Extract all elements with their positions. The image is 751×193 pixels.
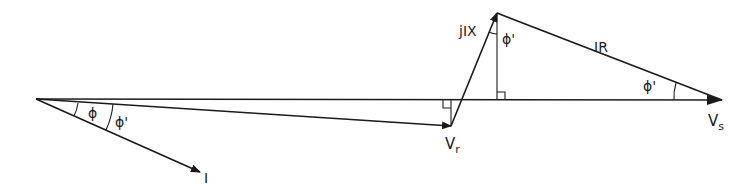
ir-label: IR	[594, 39, 608, 55]
phi-arc	[74, 103, 78, 116]
phi-prime-arc-left	[106, 104, 113, 130]
phi-prime-arc-right	[674, 83, 676, 100]
vr-label: Vr	[445, 135, 460, 156]
vr-label-sub: r	[455, 143, 460, 156]
vr-phasor-line	[36, 99, 451, 126]
ir-phasor-line	[497, 13, 722, 100]
right-angle-marker-right	[497, 92, 505, 100]
current-label: I	[204, 170, 208, 186]
right-angle-marker-left	[443, 100, 451, 108]
vs-label-sub: s	[718, 120, 724, 133]
phi-prime-label-left: ϕ'	[115, 114, 128, 130]
phasor-diagram: ϕ ϕ' I jIX ϕ' IR ϕ' Vr Vs	[0, 0, 751, 193]
phi-prime-arc-top	[489, 32, 497, 34]
vs-label: Vs	[708, 112, 724, 133]
jix-label: jIX	[458, 23, 477, 39]
current-phasor-line	[36, 99, 200, 172]
vs-phasor-line	[36, 99, 722, 100]
phi-prime-label-top: ϕ'	[502, 31, 515, 47]
phi-label: ϕ	[88, 105, 97, 121]
phi-prime-label-right: ϕ'	[643, 78, 656, 94]
